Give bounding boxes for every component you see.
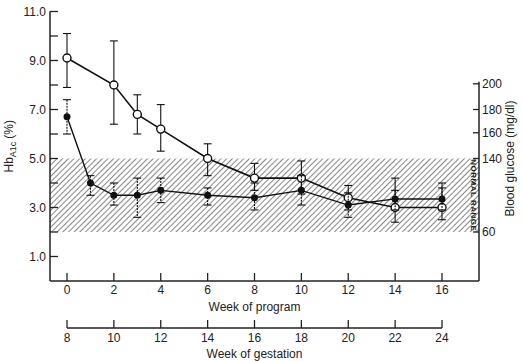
chart: NORMAL RANGE 1.03.05.07.09.011.020018016…	[0, 0, 522, 361]
y2-tick-label: 160	[482, 126, 502, 140]
data-point-filled	[111, 192, 117, 198]
y2-tick-label: 60	[482, 225, 496, 239]
data-point-open	[63, 54, 71, 62]
x-axis-title: Week of program	[209, 300, 301, 314]
normal-range-label: NORMAL RANGE	[469, 159, 478, 231]
x2-tick-label: 12	[154, 331, 168, 345]
data-point-filled	[64, 114, 70, 120]
y-axis-title: HbA1c(%)	[2, 120, 18, 173]
data-point-open	[251, 174, 259, 182]
x-tick-label: 16	[435, 283, 449, 297]
data-point-open	[157, 125, 165, 133]
data-point-open	[204, 155, 212, 163]
data-point-filled	[135, 192, 141, 198]
data-point-filled	[252, 195, 258, 201]
data-point-filled	[392, 196, 398, 202]
x-tick-label: 6	[204, 283, 211, 297]
x2-tick-label: 18	[295, 331, 309, 345]
y2-tick-label: 200	[482, 77, 502, 91]
data-point-filled	[299, 188, 305, 194]
y-axis-title-main: Hb	[2, 157, 16, 173]
x2-tick-label: 16	[248, 331, 262, 345]
x-tick-label: 10	[295, 283, 309, 297]
x-tick-label: 8	[251, 283, 258, 297]
y2-tick-label: 140	[482, 152, 502, 166]
y-tick-label: 1.0	[29, 250, 46, 264]
x-tick-label: 12	[342, 283, 356, 297]
y-axis-title-unit: (%)	[2, 120, 16, 139]
data-point-filled	[205, 192, 211, 198]
x-tick-label: 2	[111, 283, 118, 297]
data-point-open	[133, 110, 141, 118]
y-axis-title-sub: A1c	[8, 141, 18, 157]
y-tick-label: 7.0	[29, 103, 46, 117]
x2-tick-label: 24	[435, 331, 449, 345]
data-point-open	[110, 81, 118, 89]
x2-tick-label: 22	[388, 331, 402, 345]
y2-axis-title: Blood glucose (mg/dl)	[503, 100, 517, 216]
x2-tick-label: 8	[64, 331, 71, 345]
y-tick-label: 3.0	[29, 201, 46, 215]
x-tick-label: 4	[157, 283, 164, 297]
x2-axis-title: Week of gestation	[207, 347, 303, 361]
y-tick-label: 11.0	[24, 5, 47, 19]
y2-tick-label: 180	[482, 103, 502, 117]
data-point-filled	[158, 188, 164, 194]
y-tick-label: 9.0	[29, 54, 46, 68]
data-point-filled	[88, 180, 94, 186]
y-tick-label: 5.0	[29, 152, 46, 166]
data-point-filled	[439, 196, 445, 202]
x-tick-label: 14	[388, 283, 402, 297]
x2-tick-label: 20	[342, 331, 356, 345]
x2-tick-label: 10	[107, 331, 121, 345]
data-point-filled	[345, 202, 351, 208]
x-tick-label: 0	[64, 283, 71, 297]
x2-tick-label: 14	[201, 331, 215, 345]
